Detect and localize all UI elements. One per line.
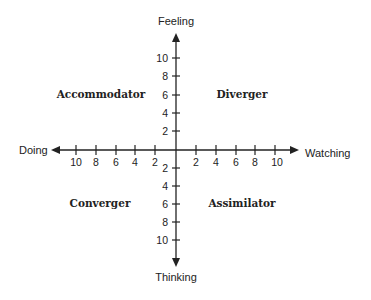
- axis-label-feeling: Feeling: [158, 15, 194, 27]
- axis-label-thinking: Thinking: [155, 271, 197, 283]
- tick-label: 8: [93, 156, 99, 168]
- tick-label: 10: [156, 234, 168, 246]
- quadrant-label-accommodator: Accommodator: [56, 88, 146, 100]
- quadrant-label-assimilator: Assimilator: [207, 197, 276, 209]
- tick-label: 10: [271, 156, 283, 168]
- tick-label: 6: [233, 156, 239, 168]
- arrow-right-icon: [290, 146, 299, 154]
- tick-label: 2: [193, 156, 199, 168]
- arrow-left-icon: [51, 146, 60, 154]
- tick-label: 4: [132, 156, 138, 168]
- tick-label: 2: [162, 162, 168, 174]
- tick-label: 6: [162, 89, 168, 101]
- arrow-down-icon: [172, 258, 180, 267]
- tick-label: 2: [152, 156, 158, 168]
- tick-label: 10: [70, 156, 82, 168]
- tick-label: 8: [252, 156, 258, 168]
- tick-label: 6: [162, 198, 168, 210]
- tick-label: 6: [113, 156, 119, 168]
- tick-label: 10: [156, 52, 168, 64]
- quadrant-label-diverger: Diverger: [217, 88, 268, 100]
- axis-label-doing: Doing: [19, 144, 48, 156]
- tick-label: 4: [213, 156, 219, 168]
- tick-label: 8: [162, 216, 168, 228]
- tick-label: 4: [162, 180, 168, 192]
- tick-label: 8: [162, 70, 168, 82]
- axis-label-watching: Watching: [305, 147, 350, 159]
- learning-styles-diagram: Feeling Thinking Doing Watching 10 8 6 4…: [0, 0, 371, 300]
- tick-label: 4: [162, 107, 168, 119]
- tick-label: 2: [162, 125, 168, 137]
- quadrant-label-converger: Converger: [70, 197, 131, 209]
- arrow-up-icon: [172, 33, 180, 42]
